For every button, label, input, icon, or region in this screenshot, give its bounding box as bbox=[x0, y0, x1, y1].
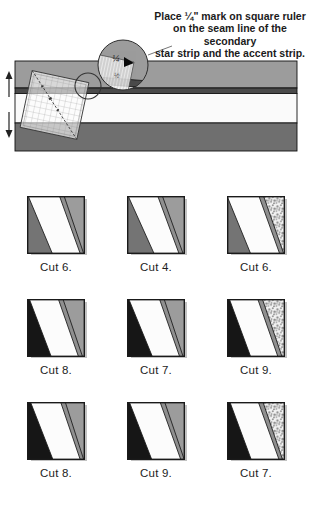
cut-count-label: Cut 9. bbox=[227, 364, 285, 376]
cut-square-tile bbox=[27, 299, 85, 357]
cut-square-cell: Cut 8. bbox=[27, 402, 85, 490]
cut-count-label: Cut 8. bbox=[27, 364, 85, 376]
cut-squares-grid: Cut 6. Cut 4. Cut 6. bbox=[27, 196, 285, 490]
caption-line: Place ¼" mark on square ruler bbox=[146, 10, 314, 22]
figure-caption: Place ¼" mark on square ruler on the sea… bbox=[146, 10, 314, 60]
cut-square-tile bbox=[127, 196, 185, 254]
cut-square-cell: Cut 9. bbox=[127, 402, 185, 490]
cut-square-tile bbox=[227, 196, 285, 254]
cut-square-tile bbox=[127, 299, 185, 357]
cut-square-cell: Cut 7. bbox=[127, 299, 185, 387]
cut-square-tile bbox=[227, 299, 285, 357]
cut-count-label: Cut 9. bbox=[127, 467, 185, 479]
cut-square-cell: Cut 8. bbox=[27, 299, 85, 387]
cut-square-cell: Cut 4. bbox=[127, 196, 185, 284]
page: ¼ ½ Place ¼" mark on square ruler on the… bbox=[0, 0, 314, 510]
cut-count-label: Cut 6. bbox=[227, 261, 285, 273]
press-direction-arrow-up bbox=[6, 71, 13, 97]
cut-square-cell: Cut 6. bbox=[27, 196, 85, 284]
cut-count-label: Cut 8. bbox=[27, 467, 85, 479]
cut-square-cell: Cut 9. bbox=[227, 299, 285, 387]
square-ruler bbox=[20, 71, 89, 140]
cut-count-label: Cut 6. bbox=[27, 261, 85, 273]
half-inch-label: ½ bbox=[114, 72, 120, 79]
cut-square-tile bbox=[27, 196, 85, 254]
cut-square-tile bbox=[27, 402, 85, 460]
cut-square-tile bbox=[127, 402, 185, 460]
cut-square-cell: Cut 6. bbox=[227, 196, 285, 284]
cut-count-label: Cut 7. bbox=[227, 467, 285, 479]
cut-count-label: Cut 7. bbox=[127, 364, 185, 376]
quarter-inch-label: ¼ bbox=[112, 53, 120, 63]
cut-count-label: Cut 4. bbox=[127, 261, 185, 273]
caption-line: star strip and the accent strip. bbox=[146, 47, 314, 59]
press-direction-arrow-down bbox=[6, 112, 13, 138]
cut-square-tile bbox=[227, 402, 285, 460]
cut-square-cell: Cut 7. bbox=[227, 402, 285, 490]
caption-line: on the seam line of the secondary bbox=[146, 22, 314, 47]
